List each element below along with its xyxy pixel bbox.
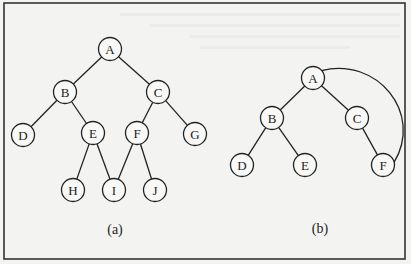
- node-label: B: [61, 85, 70, 100]
- node-label: D: [18, 128, 27, 143]
- edge-B-E: [279, 127, 299, 155]
- node-b-D: D: [231, 154, 254, 177]
- edge-B-D: [31, 100, 57, 127]
- node-label: A: [308, 71, 318, 86]
- node-label: C: [154, 85, 163, 100]
- node-label: J: [152, 183, 157, 198]
- tree-diagram-figure: ABCDEFGHIJ(a)ABCDEF(b): [0, 0, 411, 264]
- edge-B-E: [71, 101, 86, 123]
- node-a-J: J: [144, 179, 167, 202]
- edge-A-B: [73, 57, 101, 84]
- node-a-G: G: [184, 123, 207, 146]
- edge-C-F: [363, 128, 378, 155]
- node-label: G: [190, 127, 199, 142]
- node-label: B: [268, 111, 277, 126]
- node-label: I: [112, 183, 116, 198]
- background-bleed-text: [120, 13, 400, 49]
- edge-A-C: [119, 57, 150, 85]
- node-a-I: I: [103, 179, 126, 202]
- edge-C-F: [142, 102, 153, 123]
- node-a-B: B: [54, 81, 77, 104]
- edge-B-D: [248, 128, 266, 156]
- edge-A-B: [280, 86, 305, 110]
- edge-A-C: [322, 86, 349, 111]
- edge-E-H: [77, 144, 89, 179]
- node-label: E: [301, 158, 309, 173]
- node-a-A: A: [99, 38, 122, 61]
- edge-E-I: [97, 144, 110, 179]
- node-a-H: H: [62, 179, 85, 202]
- node-a-F: F: [126, 122, 149, 145]
- caption-a: (a): [107, 222, 123, 238]
- diagram-canvas: ABCDEFGHIJ(a)ABCDEF(b): [0, 0, 411, 264]
- node-label: A: [105, 42, 115, 57]
- node-label: H: [68, 183, 77, 198]
- trees-layer: ABCDEFGHIJ(a)ABCDEF(b): [12, 38, 404, 239]
- caption-b: (b): [312, 221, 329, 237]
- node-a-D: D: [12, 124, 35, 147]
- node-b-B: B: [261, 107, 284, 130]
- edge-F-I: [118, 144, 132, 180]
- node-a-E: E: [82, 122, 105, 145]
- tree-b: ABCDEF(b): [231, 67, 404, 238]
- edge-F-J: [140, 144, 151, 179]
- node-label: F: [379, 158, 386, 173]
- node-b-C: C: [346, 107, 369, 130]
- node-label: D: [237, 158, 246, 173]
- node-b-F: F: [372, 154, 395, 177]
- node-label: E: [89, 126, 97, 141]
- node-label: C: [353, 111, 362, 126]
- edge-C-G: [166, 101, 188, 126]
- tree-a: ABCDEFGHIJ(a): [12, 38, 207, 239]
- node-label: F: [133, 126, 140, 141]
- node-b-A: A: [302, 67, 325, 90]
- node-b-E: E: [294, 154, 317, 177]
- node-a-C: C: [147, 81, 170, 104]
